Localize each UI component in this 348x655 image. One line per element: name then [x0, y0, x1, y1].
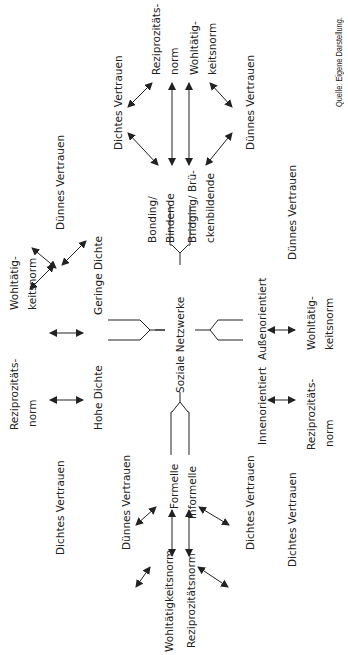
top-reciprocity-norm-line2: norm — [168, 48, 180, 75]
right-thin-trust-label: Dünnes Vertrauen — [286, 165, 298, 260]
right-reciprocity-norm-line2: norm — [323, 420, 335, 447]
bonding-label-line2: Bindende — [164, 193, 176, 243]
left-reciprocity-norm-line1: Reziprozitäts- — [8, 359, 20, 430]
aussenorientiert-label: Außenorientiert — [256, 278, 268, 360]
bottom-reciprocity-norm-label: Reziprozitätsnorm — [185, 553, 197, 648]
bottom-benevolence-norm-label: Wohltätigkeitsnorm — [163, 550, 175, 652]
bottom-dense-trust-label: Dichtes Vertrauen — [244, 455, 256, 550]
hohe-dichte-label: Hohe Dichte — [92, 365, 104, 430]
formelle-label: Formelle — [168, 464, 180, 509]
top-dense-trust-label: Dichtes Vertrauen — [112, 55, 124, 150]
right-dense-trust-label: Dichtes Vertrauen — [286, 472, 298, 567]
top-reciprocity-norm-line1: Reziprozitäts- — [150, 4, 162, 75]
bridging-label-line2: ckenbildende — [204, 173, 216, 243]
informelle-label: Informelle — [186, 466, 198, 519]
right-benevolence-norm-line1: Wohltätig- — [305, 296, 317, 350]
center-label: Soziale Netzwerke — [174, 297, 186, 393]
top-benevolence-norm-line1: Wohltätig- — [188, 21, 200, 75]
left-dense-trust-label: Dichtes Vertrauen — [54, 460, 66, 555]
left-benevolence-norm-line1: Wohltätig- — [8, 256, 20, 310]
left-reciprocity-norm-line2: norm — [26, 400, 38, 427]
left-benevolence-norm-line2: keitsnorm — [26, 258, 38, 310]
right-benevolence-norm-line2: keitsnorm — [323, 298, 335, 350]
bonding-label-line1: Bonding/ — [146, 196, 158, 243]
top-benevolence-norm-line2: keitsnorm — [206, 23, 218, 75]
top-thin-trust-label: Dünnes Vertrauen — [244, 55, 256, 150]
left-thin-trust-label: Dünnes Vertrauen — [54, 135, 66, 230]
source-note: Quelle: Eigene Darstellung. — [334, 17, 344, 107]
bottom-thin-trust-label: Dünnes Vertrauen — [120, 455, 132, 550]
innenorientiert-label: Innenorientiert — [256, 367, 268, 445]
right-reciprocity-norm-line1: Reziprozitäts- — [305, 379, 317, 450]
bridging-label-line1: Bridging/ Brü- — [186, 170, 198, 243]
geringe-dichte-label: Geringe Dichte — [92, 236, 104, 315]
social-networks-diagram: Soziale Netzwerke Bonding/ Bindende Brid… — [0, 0, 348, 655]
